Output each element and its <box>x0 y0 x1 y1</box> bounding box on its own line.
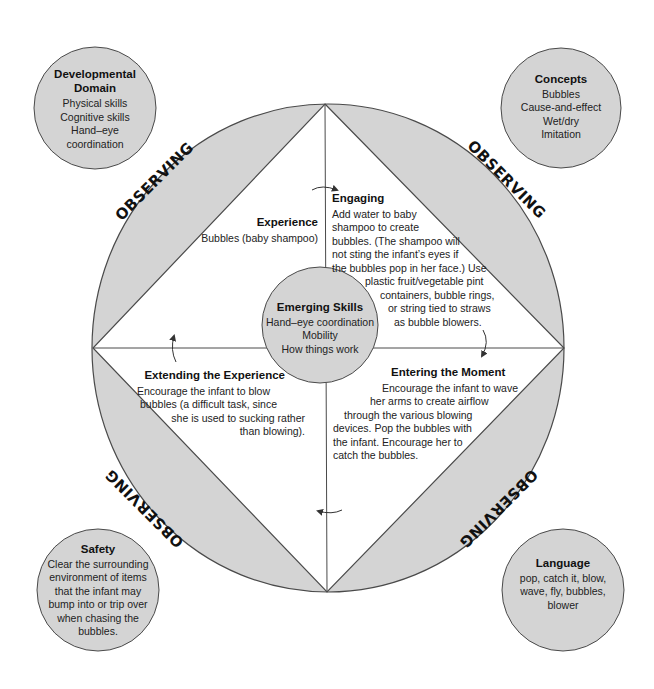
extending-the-experience-text: Extending the Experience Encourage the i… <box>110 369 320 439</box>
concepts-item: Wet/dry <box>501 115 621 129</box>
emerging-skills-item: How things work <box>260 343 380 357</box>
safety-line: bubbles. <box>38 625 158 639</box>
entering-the-moment-title: Entering the Moment <box>391 366 523 380</box>
entering-the-moment-line: catch the bubbles. <box>333 449 523 463</box>
engaging-text: Engaging Add water to baby shampoo to cr… <box>332 192 502 329</box>
entering-the-moment-line: Encourage the infant to wave <box>382 382 523 396</box>
experience-text: Experience Bubbles (baby shampoo) <box>190 216 318 245</box>
developmental-domain-title-2: Domain <box>35 82 155 96</box>
engaging-line: not sting the infant’s eyes if <box>332 248 502 262</box>
developmental-domain-item: coordination <box>35 138 155 152</box>
experience-line: Bubbles (baby shampoo) <box>190 232 318 246</box>
extending-the-experience-line: bubbles (a difficult task, since <box>110 398 277 412</box>
language-line: pop, catch it, blow, <box>503 572 623 586</box>
entering-the-moment-line: the infant. Encourage her to <box>333 436 523 450</box>
concepts-item: Imitation <box>501 128 621 142</box>
developmental-domain-item: Physical skills <box>35 97 155 111</box>
language-title: Language <box>503 557 623 571</box>
concepts-item: Bubbles <box>501 88 621 102</box>
language-line: blower <box>503 599 623 613</box>
language-text: Language pop, catch it, blow, wave, fly,… <box>503 557 623 612</box>
engaging-line: bubbles. (The shampoo will <box>332 235 502 249</box>
engaging-line: plastic fruit/vegetable pint <box>365 275 502 289</box>
extending-the-experience-line: she is used to sucking rather <box>110 412 305 426</box>
safety-line: when chasing the <box>38 612 158 626</box>
engaging-line: containers, bubble rings, <box>380 289 502 303</box>
entering-the-moment-line: devices. Pop the bubbles with <box>333 422 523 436</box>
engaging-line: shampoo to create <box>332 221 502 235</box>
developmental-domain-title-1: Developmental <box>35 68 155 82</box>
extending-the-experience-title: Extending the Experience <box>110 369 285 383</box>
engaging-title: Engaging <box>332 192 502 206</box>
entering-the-moment-text: Entering the Moment Encourage the infant… <box>333 366 523 463</box>
safety-line: bump into or trip over <box>38 598 158 612</box>
emerging-skills-item: Mobility <box>260 329 380 343</box>
experience-title: Experience <box>190 216 318 230</box>
safety-text: Safety Clear the surrounding environment… <box>38 543 158 639</box>
extending-the-experience-line: than blowing). <box>110 425 305 439</box>
engaging-line: Add water to baby <box>332 208 502 222</box>
engaging-line: or string tied to straws <box>388 302 502 316</box>
engaging-line: as bubble blowers. <box>394 316 502 330</box>
safety-line: environment of items <box>38 571 158 585</box>
developmental-domain-item: Hand–eye <box>35 124 155 138</box>
safety-title: Safety <box>38 543 158 557</box>
concepts-title: Concepts <box>501 73 621 87</box>
engaging-line: the bubbles pop in her face.) Use <box>332 262 502 276</box>
language-line: wave, fly, bubbles, <box>503 585 623 599</box>
concepts-item: Cause-and-effect <box>501 101 621 115</box>
entering-the-moment-line: through the various blowing <box>344 409 523 423</box>
concepts-text: Concepts Bubbles Cause-and-effect Wet/dr… <box>501 73 621 142</box>
extending-the-experience-line: Encourage the infant to blow <box>110 385 270 399</box>
safety-line: that the infant may <box>38 585 158 599</box>
developmental-domain-text: Developmental Domain Physical skills Cog… <box>35 68 155 151</box>
entering-the-moment-line: her arms to create airflow <box>370 395 523 409</box>
developmental-domain-item: Cognitive skills <box>35 111 155 125</box>
safety-line: Clear the surrounding <box>38 558 158 572</box>
